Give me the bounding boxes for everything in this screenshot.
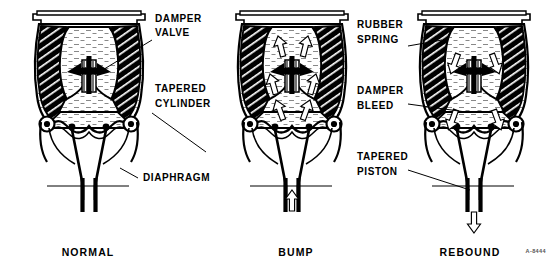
callout-label-line1: TAPERED	[155, 83, 206, 94]
caption-normal: NORMAL	[62, 246, 115, 258]
callout-label-line2: BLEED	[357, 100, 394, 111]
callout-label-line2: SPRING	[357, 34, 399, 45]
callout-label-line2: PISTON	[357, 166, 398, 177]
callout-label-line1: DIAPHRAGM	[143, 172, 210, 183]
figure-canvas: DAMPER VALVE TAPERED CYLINDER DIAPHRAGM …	[0, 0, 551, 267]
suspension-diagram: DAMPER VALVE TAPERED CYLINDER DIAPHRAGM …	[0, 0, 551, 267]
callout-label-line1: DAMPER	[357, 85, 404, 96]
caption-rebound: REBOUND	[440, 246, 501, 258]
callout-label-line1: RUBBER	[357, 19, 404, 30]
callout-label-line1: TAPERED	[357, 151, 408, 162]
caption-bump: BUMP	[278, 246, 313, 258]
callout-label-line1: DAMPER	[155, 13, 202, 24]
figure-code: A-8444	[526, 248, 547, 254]
callout-label-line2: VALVE	[155, 27, 190, 38]
callout-diaphragm: DIAPHRAGM	[143, 172, 210, 183]
callout-label-line2: CYLINDER	[155, 98, 211, 109]
